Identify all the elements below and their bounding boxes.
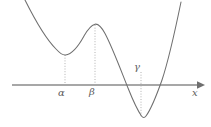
function-graph-figure: α β γ x bbox=[0, 0, 211, 127]
graph-canvas bbox=[0, 0, 211, 127]
label-x-axis: x bbox=[192, 88, 198, 98]
label-alpha: α bbox=[58, 88, 65, 98]
x-axis-arrow-icon bbox=[197, 81, 205, 89]
label-beta: β bbox=[89, 87, 95, 97]
function-curve bbox=[25, 0, 181, 118]
label-gamma: γ bbox=[134, 62, 140, 72]
